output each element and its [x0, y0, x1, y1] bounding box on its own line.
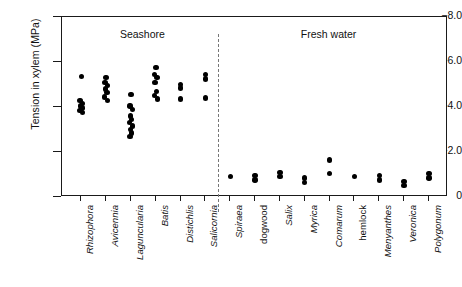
x-axis-tick: [105, 196, 106, 201]
x-axis-tick-label: Batis: [159, 205, 170, 226]
x-axis-tick-label: Salicornia: [208, 205, 219, 247]
x-axis-tick-label: Myrica: [308, 205, 319, 233]
x-axis-tick-label: Veronica: [407, 205, 418, 243]
x-axis-tick: [80, 196, 81, 201]
x-axis-tick-label: Spiraea: [233, 205, 244, 238]
data-point: [401, 183, 406, 188]
data-point: [153, 65, 158, 70]
x-axis-tick-label: Rhizophora: [84, 205, 95, 254]
data-point: [426, 175, 431, 180]
y-axis-tick: [53, 151, 61, 152]
data-point: [252, 177, 257, 182]
data-point: [327, 171, 332, 176]
x-axis-tick: [130, 196, 131, 201]
data-point: [203, 76, 208, 81]
x-axis-tick-label: hemlock: [357, 205, 368, 241]
x-axis-tick-label: Laguncularia: [134, 205, 145, 260]
x-axis-tick: [329, 196, 330, 201]
x-axis-tick: [180, 196, 181, 201]
y-axis-tick: [53, 196, 61, 197]
data-point: [152, 80, 157, 85]
data-point: [352, 174, 357, 179]
group-heading-seashore: Seashore: [82, 28, 202, 40]
x-axis-tick-label: Distichlis: [184, 205, 195, 243]
data-point: [130, 107, 135, 112]
y-axis-tick: [53, 16, 61, 17]
data-points-layer: [62, 17, 446, 195]
group-divider-line: [218, 34, 219, 212]
x-axis-tick: [229, 196, 230, 201]
data-point: [155, 96, 160, 101]
xylem-tension-scatter-figure: Tension in xylem (MPa) −8.0−6.0−4.0−2.00…: [0, 0, 462, 287]
x-axis-tick: [204, 196, 205, 201]
data-point: [80, 110, 85, 115]
x-axis-tick: [304, 196, 305, 201]
x-axis-tick-label: Avicennia: [109, 205, 120, 246]
data-point: [178, 85, 183, 90]
data-point: [203, 95, 208, 100]
data-point: [302, 180, 307, 185]
data-point: [178, 96, 183, 101]
x-axis-tick-label: dogwood: [258, 205, 269, 244]
y-axis-title: Tension in xylem (MPa): [29, 0, 41, 169]
x-axis-tick: [378, 196, 379, 201]
data-point: [128, 92, 133, 97]
data-point: [79, 74, 84, 79]
x-axis-tick: [353, 196, 354, 201]
x-axis-tick: [428, 196, 429, 201]
x-axis-tick: [403, 196, 404, 201]
x-axis-tick-label: Salix: [283, 205, 294, 226]
data-point: [127, 134, 132, 139]
x-axis-tick: [279, 196, 280, 201]
x-axis-tick: [155, 196, 156, 201]
data-point: [327, 157, 332, 162]
x-axis-tick: [254, 196, 255, 201]
data-point: [105, 98, 110, 103]
y-axis-tick: [53, 106, 61, 107]
data-point: [277, 174, 282, 179]
x-axis-tick-label: Comarum: [333, 205, 344, 247]
y-axis-tick: [53, 61, 61, 62]
data-point: [377, 177, 382, 182]
x-axis-tick-label: Polygonum: [432, 205, 443, 253]
x-axis-tick-label: Menyanthes: [382, 205, 393, 257]
data-point: [228, 174, 233, 179]
plot-frame: [61, 16, 447, 196]
group-heading-fresh-water: Fresh water: [269, 28, 389, 40]
